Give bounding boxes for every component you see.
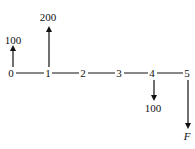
period-label-5: 5 <box>184 68 190 79</box>
cash-flow-label-1: 200 <box>40 12 57 23</box>
cash-flow-label-0: 100 <box>5 35 22 46</box>
period-label-4: 4 <box>149 68 155 79</box>
cash-flow-label-4: 100 <box>145 103 162 114</box>
period-label-1: 1 <box>45 68 51 79</box>
cash-flow-diagram <box>0 0 195 149</box>
period-label-0: 0 <box>8 68 14 79</box>
period-label-3: 3 <box>116 68 122 79</box>
cash-flow-label-5: F <box>184 131 191 142</box>
period-label-2: 2 <box>80 68 86 79</box>
